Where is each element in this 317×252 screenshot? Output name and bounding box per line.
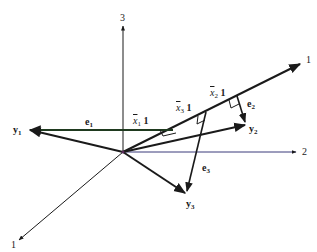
e1-label: e1 xyxy=(85,117,93,129)
unit-vector-line xyxy=(123,64,300,152)
axis-1-label: 1 xyxy=(11,240,16,250)
e2-residual xyxy=(237,96,245,122)
e2-label: e2 xyxy=(247,99,255,111)
x1-projection-label: x1 1 xyxy=(133,116,148,128)
axis-3-label: 3 xyxy=(120,13,125,23)
y3-label: y3 xyxy=(186,199,195,211)
y1-label: y1 xyxy=(13,125,22,137)
projection-diagram xyxy=(0,0,317,252)
y1-vector xyxy=(30,130,123,152)
e3-label: e3 xyxy=(202,163,210,175)
axis-2-label: 2 xyxy=(302,147,307,157)
axis-1-line xyxy=(19,152,123,240)
x3-projection-label: x3 1 xyxy=(176,103,191,115)
right-angle-marker-x2 xyxy=(229,100,239,108)
x2-projection-label: x2 1 xyxy=(210,88,225,100)
unit-vector-label: 1 xyxy=(306,55,311,65)
origin-point xyxy=(122,151,125,154)
y2-label: y2 xyxy=(249,124,258,136)
y3-vector xyxy=(123,152,185,193)
